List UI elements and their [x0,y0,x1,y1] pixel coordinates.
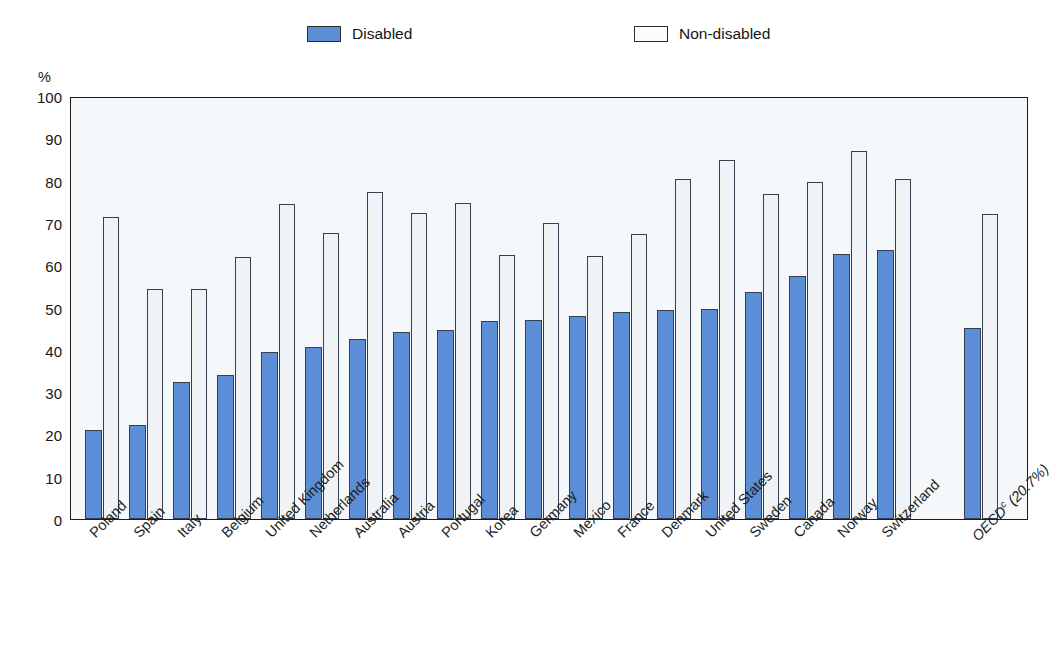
y-axis-tick-90: 90 [0,132,62,147]
bar-group [173,98,217,519]
bar-disabled[interactable] [701,309,718,519]
bar-group [789,98,833,519]
chart-legend: Disabled Non-disabled [0,26,1049,56]
bar-group [613,98,657,519]
y-axis-tick-50: 50 [0,301,62,316]
bar-group [481,98,525,519]
bar-disabled[interactable] [613,312,630,519]
y-axis-tick-0: 0 [0,513,62,528]
bar-non-disabled[interactable] [455,203,472,519]
bar-non-disabled[interactable] [147,289,164,519]
bar-group [657,98,701,519]
y-axis-tick-20: 20 [0,428,62,443]
bar-non-disabled[interactable] [411,213,428,519]
bar-disabled[interactable] [789,276,806,519]
bar-group [349,98,393,519]
bar-non-disabled[interactable] [103,217,120,519]
bar-disabled[interactable] [217,375,234,519]
bar-group [964,98,1008,519]
bar-non-disabled[interactable] [499,255,516,519]
bar-non-disabled[interactable] [851,151,868,519]
legend-swatch-disabled [307,26,341,42]
bar-group [129,98,173,519]
bar-non-disabled[interactable] [807,182,824,519]
bar-disabled[interactable] [525,320,542,519]
y-axis-tick-40: 40 [0,343,62,358]
bar-disabled[interactable] [877,250,894,519]
legend-label-non-disabled: Non-disabled [679,26,770,42]
bar-group [745,98,789,519]
y-axis-tick-80: 80 [0,174,62,189]
bar-disabled[interactable] [964,328,981,519]
y-axis-tick-70: 70 [0,216,62,231]
legend-item-non-disabled: Non-disabled [634,26,770,42]
bar-group [305,98,349,519]
bar-group [393,98,437,519]
bar-non-disabled[interactable] [235,257,252,519]
bar-non-disabled[interactable] [631,234,648,519]
bar-group [569,98,613,519]
bar-disabled[interactable] [833,254,850,519]
bar-disabled[interactable] [261,352,278,519]
y-axis-tick-labels: 1009080706050403020100 [0,97,62,520]
bar-non-disabled[interactable] [895,179,912,519]
y-axis-tick-100: 100 [0,90,62,105]
bar-group [217,98,261,519]
bar-group [261,98,305,519]
legend-item-disabled: Disabled [307,26,412,42]
bar-group [85,98,129,519]
bar-disabled[interactable] [85,430,102,519]
plot-area [70,97,1028,520]
bar-non-disabled[interactable] [587,256,604,519]
bar-disabled[interactable] [173,382,190,519]
bar-non-disabled[interactable] [279,204,296,519]
legend-swatch-non-disabled [634,26,668,42]
legend-label-disabled: Disabled [352,26,412,42]
bar-disabled[interactable] [481,321,498,519]
y-axis-tick-60: 60 [0,259,62,274]
y-axis-tick-10: 10 [0,470,62,485]
y-axis-tick-30: 30 [0,386,62,401]
bar-group [525,98,569,519]
bar-group [701,98,745,519]
bar-disabled[interactable] [569,316,586,519]
bar-group [877,98,921,519]
bar-disabled[interactable] [437,330,454,519]
bar-disabled[interactable] [393,332,410,519]
bar-non-disabled[interactable] [367,192,384,519]
bar-group [833,98,877,519]
bar-non-disabled[interactable] [543,223,560,519]
y-axis-unit: % [38,69,51,85]
bar-non-disabled[interactable] [982,214,999,519]
bar-non-disabled[interactable] [675,179,692,519]
bar-non-disabled[interactable] [191,289,208,519]
bar-container [71,98,1027,519]
bar-group [437,98,481,519]
bar-disabled[interactable] [129,425,146,519]
bar-disabled[interactable] [657,310,674,519]
bar-non-disabled[interactable] [719,160,736,519]
